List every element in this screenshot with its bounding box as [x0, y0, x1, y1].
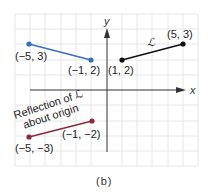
label-point-neg1-neg2: (−1, −2)	[62, 128, 101, 140]
label-segment-L: ℒ	[147, 36, 156, 48]
x-axis-arrow-icon	[176, 87, 186, 93]
label-point-1-2: (1, 2)	[108, 64, 134, 76]
y-axis-label: y	[103, 15, 111, 27]
coordinate-diagram: x y (−5, 3) (−1, 2) (1, 2) (5, 3) ℒ (−5,…	[0, 0, 208, 196]
point-neg5-3	[26, 41, 31, 46]
point-neg1-neg2	[89, 118, 94, 123]
label-point-5-3: (5, 3)	[167, 28, 193, 40]
segment-L: (1, 2) (5, 3) ℒ	[108, 28, 193, 76]
x-axis-label: x	[189, 84, 196, 96]
label-point-neg5-3: (−5, 3)	[15, 50, 47, 62]
figure-caption: (b)	[96, 175, 112, 187]
segment-reflection-y-axis: (−5, 3) (−1, 2)	[15, 41, 100, 76]
label-point-neg5-neg3: (−5, −3)	[15, 142, 54, 154]
point-neg1-2	[88, 57, 93, 62]
label-point-neg1-2: (−1, 2)	[68, 64, 100, 76]
point-1-2	[119, 57, 124, 62]
point-neg5-neg3	[26, 134, 31, 139]
point-5-3	[180, 41, 185, 46]
